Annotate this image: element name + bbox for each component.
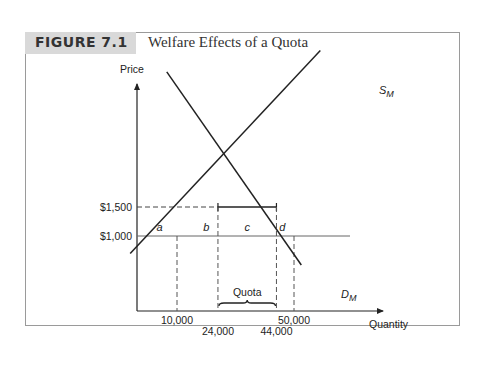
demand-curve-label-sub: M (349, 293, 357, 303)
area-label-a: a (156, 221, 162, 233)
x-tick-label: 24,000 (202, 325, 234, 337)
x-tick-label: 50,000 (278, 314, 310, 326)
y-tick-label: $1,000 (100, 230, 132, 242)
area-label-d: d (279, 221, 286, 233)
quota-brace (219, 300, 276, 306)
x-tick-label: 44,000 (260, 325, 292, 337)
quota-label: Quota (233, 286, 262, 298)
labels: PriceQuantitySMDM$1,000$1,50010,00024,00… (100, 63, 409, 337)
y-axis-label: Price (120, 63, 144, 75)
area-label-c: c (244, 221, 250, 233)
area-label-b: b (203, 221, 209, 233)
axes (137, 84, 383, 311)
chart: PriceQuantitySMDM$1,000$1,50010,00024,00… (0, 0, 482, 369)
x-axis-label: Quantity (369, 318, 409, 330)
demand-curve-label: DM (341, 288, 357, 303)
y-tick-label: $1,500 (100, 201, 132, 213)
supply-curve-label-sub: M (386, 89, 394, 99)
x-tick-label: 10,000 (161, 314, 193, 326)
supply-curve-label: SM (379, 84, 394, 99)
